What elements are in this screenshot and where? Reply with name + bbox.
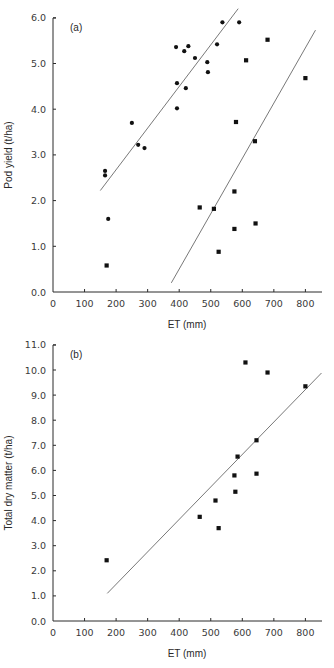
data-point-square — [265, 370, 269, 374]
y-tick-label: 0.0 — [31, 287, 46, 298]
y-tick-label: 2.0 — [31, 195, 46, 206]
panel-a-pod-yield: 0.01.02.03.04.05.06.00100200300400500600… — [3, 9, 322, 330]
x-tick-label: 0 — [50, 298, 56, 309]
y-tick-label: 4.0 — [31, 515, 46, 526]
y-tick-label: 2.0 — [31, 565, 46, 576]
data-point-circle — [103, 169, 107, 173]
x-tick-label: 800 — [296, 627, 314, 638]
x-tick-label: 100 — [75, 298, 93, 309]
data-point-square — [244, 58, 248, 62]
x-axis-label: ET (mm) — [168, 319, 207, 330]
regression-line — [100, 9, 238, 191]
data-point-square — [232, 227, 236, 231]
y-tick-label: 0.0 — [31, 616, 46, 627]
y-tick-label: 3.0 — [31, 149, 46, 160]
x-tick-label: 600 — [233, 298, 251, 309]
y-tick-label: 5.0 — [31, 490, 46, 501]
data-point-square — [232, 189, 236, 193]
x-tick-label: 0 — [50, 627, 56, 638]
data-point-square — [217, 250, 221, 254]
x-tick-label: 100 — [75, 627, 93, 638]
data-point-circle — [237, 20, 241, 24]
x-tick-label: 500 — [202, 627, 220, 638]
x-tick-label: 300 — [139, 298, 157, 309]
y-tick-label: 1.0 — [31, 590, 46, 601]
y-tick-label: 3.0 — [31, 540, 46, 551]
data-point-circle — [175, 106, 179, 110]
data-point-circle — [106, 217, 110, 221]
data-point-square — [243, 360, 247, 364]
x-tick-label: 200 — [107, 627, 125, 638]
data-point-circle — [215, 42, 219, 46]
data-point-square — [254, 472, 258, 476]
y-tick-label: 8.0 — [31, 415, 46, 426]
x-tick-label: 400 — [170, 627, 188, 638]
y-tick-label: 7.0 — [31, 440, 46, 451]
data-point-square — [253, 139, 257, 143]
panel-label: (a) — [70, 22, 82, 33]
panel-label: (b) — [70, 349, 82, 360]
x-tick-label: 800 — [296, 298, 314, 309]
data-point-circle — [130, 121, 134, 125]
data-point-square — [233, 490, 237, 494]
data-point-circle — [142, 146, 146, 150]
data-point-square — [235, 454, 239, 458]
data-point-circle — [184, 86, 188, 90]
panel-b-total-dry-matter: 0.01.02.03.04.05.06.07.08.09.010.011.001… — [3, 339, 322, 659]
data-point-square — [303, 76, 307, 80]
data-point-square — [234, 120, 238, 124]
data-point-square — [253, 221, 257, 225]
data-point-circle — [193, 56, 197, 60]
y-tick-label: 6.0 — [31, 465, 46, 476]
data-point-square — [105, 263, 109, 267]
y-tick-label: 4.0 — [31, 104, 46, 115]
x-tick-label: 700 — [265, 298, 283, 309]
data-point-square — [303, 384, 307, 388]
data-point-circle — [186, 44, 190, 48]
data-point-square — [265, 38, 269, 42]
data-point-circle — [206, 70, 210, 74]
data-point-square — [232, 473, 236, 477]
data-point-circle — [136, 143, 140, 147]
y-tick-label: 9.0 — [31, 390, 46, 401]
figure: 0.01.02.03.04.05.06.00100200300400500600… — [0, 0, 334, 668]
chart-canvas: 0.01.02.03.04.05.06.00100200300400500600… — [0, 0, 334, 668]
data-point-square — [198, 515, 202, 519]
data-point-circle — [220, 20, 224, 24]
x-axis-label: ET (mm) — [168, 648, 207, 659]
data-point-square — [212, 207, 216, 211]
data-point-circle — [174, 45, 178, 49]
x-tick-label: 600 — [233, 627, 251, 638]
data-point-circle — [175, 81, 179, 85]
y-tick-label: 5.0 — [31, 58, 46, 69]
data-point-circle — [182, 49, 186, 53]
x-tick-label: 400 — [170, 298, 188, 309]
y-tick-label: 1.0 — [31, 241, 46, 252]
data-point-square — [254, 438, 258, 442]
y-axis-label: Pod yield (t/ha) — [3, 121, 14, 188]
data-point-square — [217, 526, 221, 530]
y-tick-label: 11.0 — [25, 339, 46, 350]
y-axis-label: Total dry matter (t/ha) — [3, 435, 14, 530]
data-point-circle — [103, 173, 107, 177]
x-tick-label: 300 — [139, 627, 157, 638]
data-point-circle — [205, 60, 209, 64]
x-tick-label: 500 — [202, 298, 220, 309]
regression-line — [107, 373, 321, 593]
y-tick-label: 6.0 — [31, 12, 46, 23]
x-tick-label: 200 — [107, 298, 125, 309]
data-point-square — [198, 205, 202, 209]
data-point-square — [213, 498, 217, 502]
x-tick-label: 700 — [265, 627, 283, 638]
y-tick-label: 10.0 — [25, 365, 46, 376]
data-point-square — [105, 558, 109, 562]
